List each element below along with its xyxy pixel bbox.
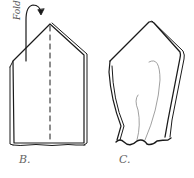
figure-c-label: C.: [119, 153, 131, 166]
inner-seam-line-2: [136, 95, 139, 140]
fold-arrowhead-icon: [38, 9, 44, 15]
figure-b-label: B.: [19, 153, 31, 166]
figure-c-left-edge: [109, 61, 121, 140]
figure-b: [10, 5, 87, 146]
inner-seam-line: [145, 61, 160, 140]
fold-annotation: Fold: [12, 0, 22, 20]
fold-arrow-icon: [26, 5, 41, 61]
diagram-canvas: Fold B. C.: [0, 0, 194, 178]
figure-b-bottom-edge: [13, 145, 85, 146]
diagram-svg: [0, 0, 194, 178]
figure-c: [109, 21, 184, 145]
figure-c-bottom-edge: [116, 138, 171, 145]
figure-b-left-edge: [10, 67, 13, 145]
